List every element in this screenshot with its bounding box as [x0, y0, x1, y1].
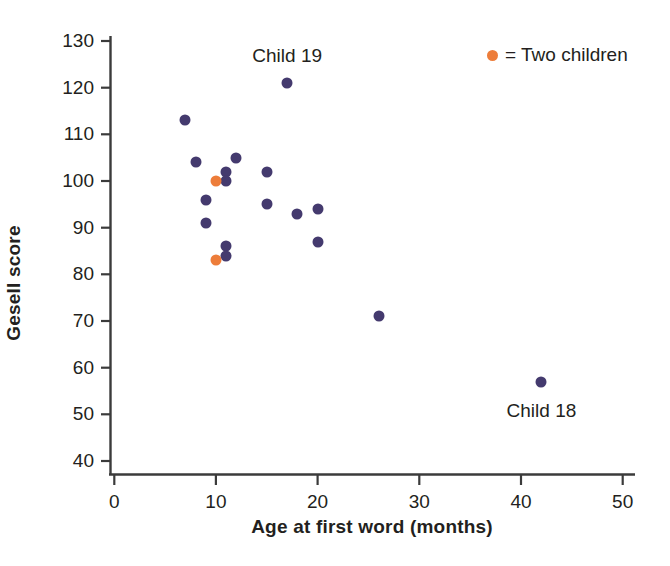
- legend: = Two children: [487, 44, 628, 66]
- data-point: [536, 376, 547, 387]
- point-annotation: Child 19: [252, 45, 322, 67]
- y-tick-label-120: 120: [52, 77, 94, 99]
- point-annotation: Child 18: [507, 400, 577, 422]
- y-tick-label-70: 70: [52, 310, 94, 332]
- y-tick-label-130: 130: [52, 30, 94, 52]
- data-point: [261, 199, 272, 210]
- data-point: [211, 255, 222, 266]
- x-tick-label-0: 0: [109, 491, 120, 513]
- x-axis-ticks: [114, 475, 622, 485]
- data-point: [200, 194, 211, 205]
- scatter-plot-figure: 130 120 110 100 90 80 70 60 50 40 0 10 2…: [0, 0, 670, 566]
- y-tick-label-100: 100: [52, 170, 94, 192]
- legend-label: = Two children: [505, 44, 628, 66]
- data-point: [211, 175, 222, 186]
- y-tick-label-50: 50: [52, 403, 94, 425]
- x-tick-label-30: 30: [409, 491, 430, 513]
- data-point: [231, 152, 242, 163]
- data-point: [200, 217, 211, 228]
- legend-two-children-dot-icon: [487, 50, 498, 61]
- y-tick-label-60: 60: [52, 357, 94, 379]
- data-point: [180, 115, 191, 126]
- data-point: [292, 208, 303, 219]
- data-point: [282, 77, 293, 88]
- data-point: [312, 203, 323, 214]
- y-tick-label-40: 40: [52, 450, 94, 472]
- plot-axes-svg: [0, 0, 670, 566]
- y-axis-title: Gesell score: [3, 225, 25, 340]
- data-point: [221, 250, 232, 261]
- data-point: [373, 311, 384, 322]
- y-axis-ticks: [101, 41, 110, 461]
- y-tick-label-80: 80: [52, 263, 94, 285]
- data-point: [221, 175, 232, 186]
- data-point: [190, 157, 201, 168]
- data-point: [261, 166, 272, 177]
- x-tick-label-20: 20: [307, 491, 328, 513]
- x-tick-label-50: 50: [612, 491, 633, 513]
- y-tick-label-90: 90: [52, 217, 94, 239]
- y-tick-label-110: 110: [52, 123, 94, 145]
- data-point: [312, 236, 323, 247]
- x-axis-title: Age at first word (months): [251, 516, 493, 538]
- x-tick-label-10: 10: [205, 491, 226, 513]
- x-tick-label-40: 40: [510, 491, 531, 513]
